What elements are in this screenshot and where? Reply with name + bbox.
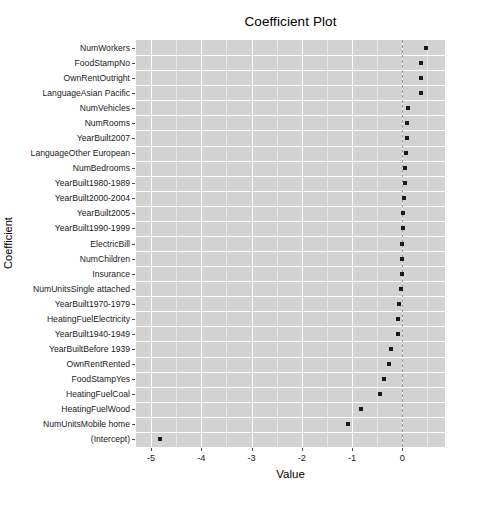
data-point bbox=[399, 287, 403, 291]
data-point bbox=[403, 181, 407, 185]
data-point bbox=[400, 257, 404, 261]
grid-line-horizontal bbox=[136, 402, 445, 403]
y-axis-tick-mark bbox=[132, 274, 135, 275]
y-axis-tick-label: Insurance bbox=[92, 269, 130, 278]
data-point bbox=[424, 46, 428, 50]
data-point bbox=[403, 166, 407, 170]
x-axis-tick-label: -3 bbox=[237, 453, 267, 463]
y-axis-tick-mark bbox=[132, 48, 135, 49]
grid-line-horizontal bbox=[136, 130, 445, 131]
x-axis-tick-mark bbox=[151, 448, 152, 451]
data-point bbox=[401, 211, 405, 215]
data-point bbox=[400, 272, 404, 276]
x-axis-tick-mark bbox=[352, 448, 353, 451]
y-axis-tick-mark bbox=[132, 108, 135, 109]
y-axis-tick-mark bbox=[132, 244, 135, 245]
data-point bbox=[359, 407, 363, 411]
y-axis-tick-label: NumChildren bbox=[80, 254, 130, 263]
y-axis-title: Coefficient bbox=[2, 217, 14, 269]
y-axis-tick-label: YearBuilt1980-1989 bbox=[55, 179, 130, 188]
y-axis-tick-mark bbox=[132, 304, 135, 305]
x-axis-tick-label: -4 bbox=[186, 453, 216, 463]
grid-line-horizontal bbox=[136, 432, 445, 433]
data-point bbox=[378, 392, 382, 396]
y-axis-tick-mark bbox=[132, 168, 135, 169]
y-axis-tick-label: YearBuilt2000-2004 bbox=[55, 194, 130, 203]
y-axis-tick-mark bbox=[132, 78, 135, 79]
grid-line-horizontal bbox=[136, 55, 445, 56]
y-axis-tick-label: YearBuilt2007 bbox=[77, 133, 130, 142]
grid-line-horizontal bbox=[136, 70, 445, 71]
y-axis-tick-mark bbox=[132, 183, 135, 184]
page-title: Coefficient Plot bbox=[136, 14, 445, 29]
y-axis-tick-label: HeatingFuelWood bbox=[61, 405, 130, 414]
y-axis-tick-mark bbox=[132, 439, 135, 440]
y-axis-tick-mark bbox=[132, 93, 135, 94]
x-axis-tick-mark bbox=[201, 448, 202, 451]
plot-panel bbox=[136, 40, 445, 447]
grid-line-horizontal bbox=[136, 236, 445, 237]
y-axis-tick-mark bbox=[132, 379, 135, 380]
data-point bbox=[419, 91, 423, 95]
data-point bbox=[389, 347, 393, 351]
y-axis-tick-mark bbox=[132, 289, 135, 290]
grid-line-horizontal bbox=[136, 357, 445, 358]
data-point bbox=[419, 76, 423, 80]
data-point bbox=[396, 317, 400, 321]
coefficient-plot: Coefficient Plot NumWorkersFoodStampNoOw… bbox=[0, 0, 498, 508]
y-axis-tick-label: OwnRentOutright bbox=[64, 73, 130, 82]
y-axis-tick-label: HeatingFuelCoal bbox=[66, 390, 130, 399]
grid-line-horizontal bbox=[136, 115, 445, 116]
data-point bbox=[404, 151, 408, 155]
data-point bbox=[419, 61, 423, 65]
grid-line-horizontal bbox=[136, 266, 445, 267]
y-axis-tick-mark bbox=[132, 394, 135, 395]
grid-line-horizontal bbox=[136, 296, 445, 297]
y-axis-tick-mark bbox=[132, 153, 135, 154]
y-axis-tick-mark bbox=[132, 364, 135, 365]
data-point bbox=[397, 302, 401, 306]
grid-line-horizontal bbox=[136, 146, 445, 147]
grid-line-horizontal bbox=[136, 372, 445, 373]
grid-line-horizontal bbox=[136, 161, 445, 162]
grid-line-horizontal bbox=[136, 191, 445, 192]
data-point bbox=[396, 332, 400, 336]
y-axis-tick-label: FoodStampNo bbox=[75, 58, 130, 67]
y-axis-tick-label: LanguageOther European bbox=[31, 149, 130, 158]
x-axis-tick-label: -2 bbox=[287, 453, 317, 463]
y-axis-tick-label: NumUnitsSingle attached bbox=[33, 284, 130, 293]
y-axis-tick-label: OwnRentRented bbox=[66, 360, 130, 369]
grid-line-horizontal bbox=[136, 311, 445, 312]
x-axis-tick-label: -1 bbox=[337, 453, 367, 463]
data-point bbox=[405, 121, 409, 125]
y-axis-tick-label: NumRooms bbox=[85, 118, 130, 127]
grid-line-horizontal bbox=[136, 100, 445, 101]
y-axis-tick-label: (Intercept) bbox=[91, 435, 130, 444]
y-axis-tick-label: YearBuilt1990-1999 bbox=[55, 224, 130, 233]
data-point bbox=[400, 242, 404, 246]
y-axis-tick-label: YearBuilt1940-1949 bbox=[55, 329, 130, 338]
x-axis-tick-mark bbox=[252, 448, 253, 451]
grid-line-horizontal bbox=[136, 221, 445, 222]
y-axis-tick-mark bbox=[132, 349, 135, 350]
y-axis-tick-label: NumBedrooms bbox=[73, 164, 130, 173]
y-axis-tick-label: NumWorkers bbox=[80, 43, 130, 52]
y-axis-tick-label: NumUnitsMobile home bbox=[43, 420, 130, 429]
y-axis-tick-mark bbox=[132, 213, 135, 214]
data-point bbox=[387, 362, 391, 366]
y-axis-tick-mark bbox=[132, 63, 135, 64]
data-point bbox=[406, 106, 410, 110]
data-point bbox=[158, 437, 162, 441]
y-axis-tick-mark bbox=[132, 198, 135, 199]
grid-line-horizontal bbox=[136, 417, 445, 418]
grid-line-horizontal bbox=[136, 281, 445, 282]
grid-line-horizontal bbox=[136, 176, 445, 177]
x-axis-tick-label: -5 bbox=[136, 453, 166, 463]
x-axis-title: Value bbox=[136, 468, 445, 480]
data-point bbox=[401, 226, 405, 230]
grid-line-horizontal bbox=[136, 387, 445, 388]
data-point bbox=[405, 136, 409, 140]
y-axis-tick-label: ElectricBill bbox=[90, 239, 130, 248]
y-axis-tick-mark bbox=[132, 138, 135, 139]
y-axis-tick-mark bbox=[132, 123, 135, 124]
